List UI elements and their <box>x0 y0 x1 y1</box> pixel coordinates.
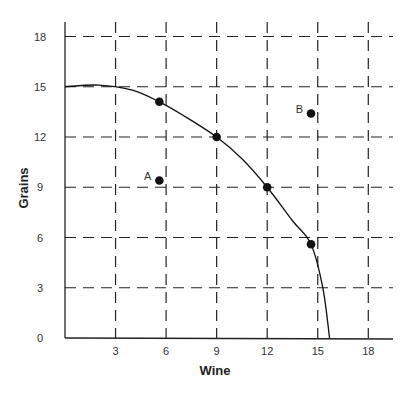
y-axis-ticks: 0369121518 <box>34 31 46 345</box>
point-label-a: A <box>144 170 152 182</box>
frontier-point <box>212 133 221 142</box>
gridlines <box>65 22 393 338</box>
axes <box>65 22 393 339</box>
point-b <box>307 109 316 118</box>
y-axis-label: Grains <box>16 167 31 208</box>
frontier-point <box>307 240 316 249</box>
y-tick-label: 15 <box>34 81 46 93</box>
ppf-chart: 0369121518 369121518 AB Wine Grains <box>0 0 413 393</box>
frontier-point <box>263 183 272 192</box>
y-tick-label: 0 <box>37 332 43 344</box>
point-a <box>155 176 164 185</box>
x-tick-label: 6 <box>163 345 169 357</box>
y-tick-label: 12 <box>34 131 46 143</box>
x-axis-ticks: 369121518 <box>112 345 374 357</box>
x-axis-label: Wine <box>200 363 231 378</box>
ppf-curve <box>65 85 330 338</box>
y-tick-label: 9 <box>37 181 43 193</box>
data-points: AB <box>144 98 315 249</box>
y-tick-label: 18 <box>34 31 46 43</box>
frontier-point <box>155 98 164 107</box>
x-tick-label: 15 <box>312 345 324 357</box>
x-tick-label: 12 <box>261 345 273 357</box>
x-tick-label: 9 <box>214 345 220 357</box>
point-label-b: B <box>296 103 303 115</box>
y-tick-label: 3 <box>37 282 43 294</box>
x-tick-label: 3 <box>112 345 118 357</box>
x-tick-label: 18 <box>362 345 374 357</box>
y-tick-label: 6 <box>37 232 43 244</box>
